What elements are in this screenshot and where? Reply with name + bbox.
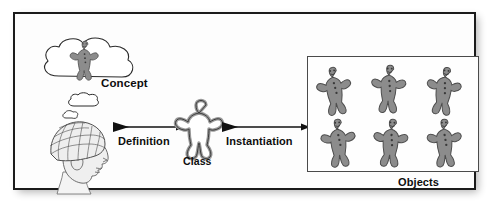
object-instance-2 (371, 65, 407, 114)
arrow-instantiation (222, 120, 310, 136)
object-instance-5 (372, 118, 410, 168)
label-concept: Concept (101, 77, 148, 89)
object-instance-1 (314, 65, 355, 117)
class-cookie-cutter (175, 98, 227, 154)
object-instance-4 (319, 118, 357, 168)
human-head-icon (37, 114, 125, 194)
object-instance-3 (424, 65, 464, 116)
label-objects: Objects (398, 176, 439, 188)
thought-cloud-puff-medium (67, 92, 101, 109)
label-definition: Definition (118, 135, 170, 147)
objects-box (307, 56, 479, 172)
object-instance-6 (426, 118, 463, 167)
label-instantiation: Instantiation (226, 135, 293, 147)
label-class: Class (183, 155, 212, 167)
diagram-frame: Concept (13, 12, 476, 190)
diagram-canvas: Concept (0, 0, 502, 205)
objects-grid (308, 57, 480, 173)
